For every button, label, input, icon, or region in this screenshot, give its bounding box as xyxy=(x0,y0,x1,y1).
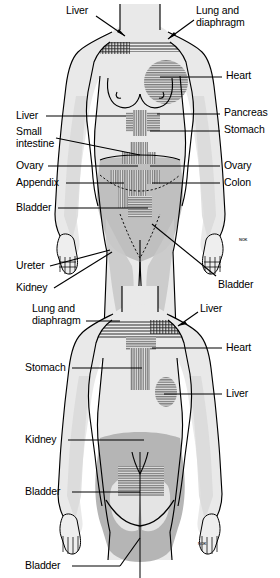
label-bladder-posterior: Bladder xyxy=(25,486,61,498)
label-small-intestine: Small intestine xyxy=(16,126,54,149)
label-lung-and-diaphragm: Lung and diaphragm xyxy=(196,5,245,28)
label-colon: Colon xyxy=(224,177,251,189)
label-bladder-posterior-2: Bladder xyxy=(25,560,61,572)
label-lung-and-diaphragm-posterior: Lung and diaphragm xyxy=(32,303,81,326)
label-ureter: Ureter xyxy=(16,260,45,272)
label-stomach-posterior: Stomach xyxy=(25,362,66,374)
label-heart: Heart xyxy=(226,70,251,82)
label-liver-left: Liver xyxy=(16,110,38,122)
label-ovary-right: Ovary xyxy=(224,160,252,172)
label-bladder-anterior-2: Bladder xyxy=(218,279,254,291)
label-liver-top: Liver xyxy=(66,5,88,17)
label-pancreas: Pancreas xyxy=(224,107,268,119)
label-ovary-left: Ovary xyxy=(16,160,44,172)
label-bladder-anterior: Bladder xyxy=(16,202,52,214)
label-liver-posterior-top: Liver xyxy=(200,303,222,315)
label-appendix: Appendix xyxy=(16,177,59,189)
label-kidney-anterior: Kidney xyxy=(16,282,48,294)
label-stomach-anterior: Stomach xyxy=(224,124,265,136)
label-kidney-posterior: Kidney xyxy=(25,434,57,446)
artist-signature-anterior: NOK xyxy=(239,237,247,242)
referred-pain-diagram: Liver Lung and diaphragm Heart Liver Pan… xyxy=(0,0,280,578)
label-heart-posterior: Heart xyxy=(226,342,251,354)
artist-signature-posterior: NOK xyxy=(198,541,206,546)
posterior-body-group xyxy=(58,286,222,578)
label-liver-posterior: Liver xyxy=(226,388,248,400)
